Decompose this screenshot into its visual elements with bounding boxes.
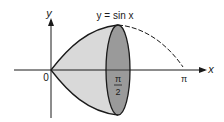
x-axis-label: x (207, 63, 214, 75)
y-axis-label: y (45, 7, 53, 19)
tick-pi: π (181, 74, 187, 84)
tick-half-pi-numerator: π (115, 74, 121, 84)
origin-label: 0 (43, 72, 49, 83)
curve-label: y = sin x (97, 10, 134, 21)
tick-half-pi-denominator: 2 (115, 87, 120, 97)
solid-of-revolution-diagram: y x 0 y = sin x π 2 π (0, 0, 224, 122)
